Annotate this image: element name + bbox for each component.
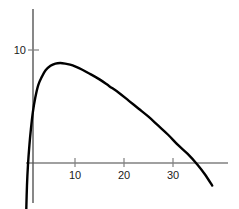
chart-container: 10 10 20 30 — [0, 0, 239, 209]
x-axis-tick-label-20: 20 — [118, 170, 130, 181]
x-axis-tick-label-30: 30 — [167, 170, 179, 181]
data-curve — [26, 63, 212, 209]
x-axis-tick-label-10: 10 — [69, 170, 81, 181]
y-axis-tick-label-10: 10 — [8, 45, 26, 56]
